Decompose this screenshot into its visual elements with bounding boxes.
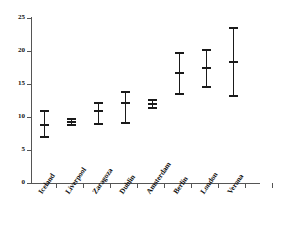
x-label-dublin: Dublin — [118, 173, 137, 195]
errorbar-cap-lower — [148, 107, 157, 109]
error-bar-chart: 2520151050 IcelandLiverpoolZaragozaDubli… — [0, 0, 290, 228]
y-axis-line — [31, 17, 32, 184]
x-label-amsterdam: Amsterdam — [145, 161, 173, 196]
x-tick-mark — [191, 183, 192, 188]
errorbar-mean-marker — [121, 102, 130, 104]
y-tick-label-wrap: 10 — [8, 113, 25, 121]
errorbar-cap-upper — [40, 110, 49, 112]
x-tick-mark — [56, 183, 57, 188]
y-tick-label-wrap: 5 — [8, 146, 25, 154]
x-label-liverpool: Liverpool — [64, 166, 88, 195]
plot-area: 2520151050 IcelandLiverpoolZaragozaDubli… — [0, 0, 290, 228]
y-tick-label-wrap: 0 — [8, 179, 25, 187]
errorbar-cap-lower — [67, 124, 76, 126]
errorbar-mean-marker — [40, 124, 49, 126]
errorbar-cap-lower — [175, 93, 184, 95]
y-tick-mark — [27, 51, 32, 52]
errorbar-mean-marker — [175, 72, 184, 74]
errorbar-cap-upper — [94, 102, 103, 104]
x-axis-line — [31, 183, 260, 184]
x-label-verona: Verona — [226, 173, 245, 196]
y-tick-mark — [27, 150, 32, 151]
errorbar-stem — [98, 102, 99, 124]
y-tick-label-wrap: 25 — [8, 14, 25, 22]
y-tick-mark — [27, 183, 32, 184]
errorbar-cap-upper — [148, 99, 157, 101]
errorbar-cap-lower — [94, 123, 103, 125]
y-tick-label: 0 — [8, 179, 25, 186]
y-tick-mark — [27, 18, 32, 19]
x-tick-mark — [137, 183, 138, 188]
errorbar-cap-upper — [202, 49, 211, 51]
x-tick-mark — [83, 183, 84, 188]
y-tick-label: 25 — [8, 14, 25, 21]
x-label-berlin: Berlin — [172, 175, 190, 195]
y-tick-label: 15 — [8, 80, 25, 87]
x-tick-mark — [218, 183, 219, 188]
errorbar-mean-marker — [202, 67, 211, 69]
errorbar-cap-lower — [121, 122, 130, 124]
errorbar-mean-marker — [148, 103, 157, 105]
errorbar-mean-marker — [229, 61, 238, 63]
errorbar-cap-lower — [40, 136, 49, 138]
errorbar-mean-marker — [67, 121, 76, 123]
x-label-zaragoza: Zaragoza — [91, 167, 115, 196]
errorbar-cap-upper — [121, 91, 130, 93]
errorbar-cap-upper — [175, 52, 184, 54]
x-tick-mark — [272, 183, 273, 188]
errorbar-mean-marker — [94, 110, 103, 112]
errorbar-cap-lower — [202, 86, 211, 88]
y-tick-label-wrap: 20 — [8, 47, 25, 55]
y-tick-label: 10 — [8, 113, 25, 120]
errorbar-cap-upper — [229, 27, 238, 29]
x-tick-mark — [164, 183, 165, 188]
y-tick-label: 5 — [8, 146, 25, 153]
x-tick-mark — [110, 183, 111, 188]
y-tick-mark — [27, 117, 32, 118]
x-tick-mark — [245, 183, 246, 188]
errorbar-cap-lower — [229, 95, 238, 97]
errorbar-stem — [125, 91, 126, 123]
y-tick-mark — [27, 84, 32, 85]
y-tick-label-wrap: 15 — [8, 80, 25, 88]
y-tick-label: 20 — [8, 47, 25, 54]
errorbar-cap-upper — [67, 118, 76, 120]
